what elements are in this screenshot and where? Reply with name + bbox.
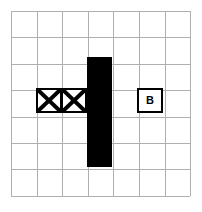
shape-layer: B [0, 0, 202, 212]
x-box-left [36, 88, 62, 113]
labeled-box-b: B [137, 88, 163, 113]
grid-diagram: B [0, 0, 202, 212]
x-box-right [61, 88, 87, 113]
cross-icon [38, 90, 60, 111]
labeled-box-b-text: B [139, 90, 161, 111]
black-bar [87, 57, 112, 167]
cross-icon [63, 90, 85, 111]
